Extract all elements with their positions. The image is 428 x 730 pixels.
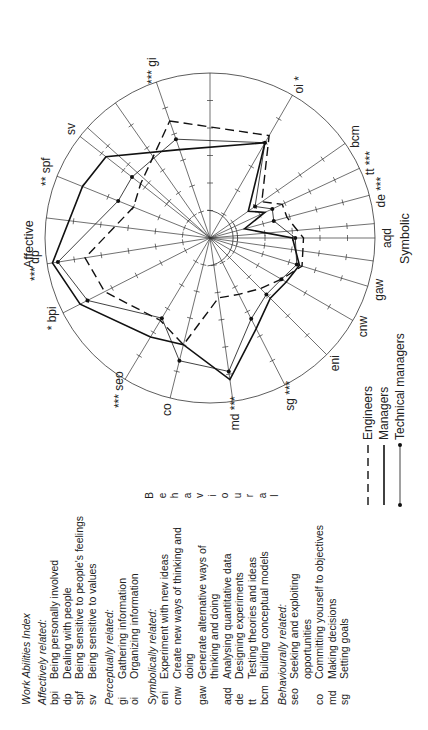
data-point — [263, 141, 267, 145]
behavioural-letter: i — [206, 489, 217, 502]
index-desc: Gathering information — [116, 515, 129, 679]
axis-tick — [292, 228, 293, 234]
axis-tick — [256, 263, 259, 268]
index-desc: Seeking and exploiting opportunities — [288, 515, 313, 679]
index-abbr: bpi — [48, 679, 61, 705]
axis-tick — [237, 239, 238, 245]
axis-tick — [276, 117, 281, 120]
index-item-dp: dpDealing with people — [61, 515, 74, 705]
data-point — [279, 277, 283, 281]
axis-tick — [144, 146, 149, 149]
axis-tick — [137, 354, 142, 357]
axis-tick — [135, 273, 138, 278]
index-group: Behaviourally related:seoSeeking and exp… — [276, 515, 351, 705]
axis-tick — [121, 168, 125, 173]
axis-tick — [249, 165, 254, 168]
index-item-aqd: aqdAnalysing quantitative data — [221, 515, 234, 705]
legend: EngineersManagersTechnical managers — [361, 333, 407, 507]
data-point — [116, 199, 120, 203]
axis-label-bpi: * bpi — [45, 306, 59, 330]
axis-label-cnw: cnw — [356, 315, 370, 337]
index-abbr: oi — [128, 679, 141, 705]
axis-tick — [160, 169, 165, 172]
behavioural-letter: h — [169, 489, 180, 502]
radar-chart: *** gioi *bcmtt ***de ***aqdgawcnwenisg … — [0, 0, 428, 530]
axis-label-sv: sv — [64, 123, 78, 135]
axis-tick — [270, 359, 275, 362]
index-desc: Being sensitive to values — [86, 515, 99, 679]
axis-label-gaw: gaw — [372, 278, 386, 300]
index-title: Work Abilities Index — [20, 515, 33, 705]
index-item-tt: ttTesting theories and ideas — [246, 515, 259, 705]
behavioural-letter: l — [269, 489, 280, 502]
index-item-bpi: bpiBeing personally involved — [48, 515, 61, 705]
behavioural-letter: r — [244, 489, 255, 502]
axis-tick — [264, 243, 265, 249]
index-abbr: gaw — [196, 679, 221, 705]
index-desc: Designing experiments — [233, 515, 246, 679]
index-group-heading: Behaviourally related: — [276, 515, 289, 705]
axis-tick — [226, 374, 232, 375]
behavioural-letter: v — [194, 489, 205, 502]
axis-tick — [143, 185, 147, 190]
index-abbr: seo — [288, 679, 313, 705]
axis-tick — [291, 247, 292, 253]
axis-tick — [321, 157, 324, 162]
behavioural-letter: a — [256, 489, 267, 502]
index-desc: Create new ways of thinking and doing — [171, 515, 196, 679]
axis-label-sg: sg *** — [283, 380, 297, 410]
index-abbr: de — [233, 679, 246, 705]
axis-tick — [165, 307, 170, 310]
axis-tick — [284, 200, 287, 205]
axis-label-oi: oi * — [292, 76, 306, 94]
index-desc: Generate alternative ways of thinking an… — [196, 515, 221, 679]
legend-marker — [398, 443, 402, 447]
behavioural-letter: e — [156, 489, 167, 502]
radar-grid — [45, 73, 375, 403]
index-desc: Analysing quantitative data — [221, 515, 234, 679]
axis-tick — [257, 335, 262, 338]
group-label-symbolic: Symbolic — [398, 213, 412, 264]
axis-tick — [304, 290, 307, 295]
index-item-cnw: cnwCreate new ways of thinking and doing — [171, 515, 196, 705]
axis-tick — [100, 151, 104, 156]
axis-tick — [346, 254, 347, 260]
axis-tick — [235, 189, 240, 192]
axis-tick — [160, 260, 163, 265]
axis-tick — [151, 331, 156, 334]
index-desc: Testing theories and ideas — [246, 515, 259, 679]
axis-tick — [319, 225, 320, 231]
data-point — [85, 298, 89, 302]
data-point — [272, 219, 276, 223]
axis-tick — [176, 191, 181, 194]
index-item-md: mdMaking decisions — [326, 515, 339, 705]
index-desc: Committing yourself to objectives — [313, 515, 326, 679]
index-group: Affectively related:bpiBeing personally … — [36, 515, 99, 705]
index-abbr: cnw — [171, 679, 196, 705]
axis-tick — [219, 319, 225, 320]
axis-tick — [222, 347, 228, 348]
group-label-behavioural: Behavioural — [143, 490, 281, 501]
index-desc: Organizing information — [128, 515, 141, 679]
axis-tick — [155, 228, 156, 234]
data-point — [227, 369, 231, 373]
axis-tick — [101, 252, 102, 258]
axis-label-seo: *** seo — [112, 371, 126, 408]
axis-label-spf: ** spf — [39, 157, 53, 186]
axis-tick — [182, 239, 183, 245]
axis-tick — [179, 284, 184, 287]
axis-tick — [128, 225, 129, 231]
legend-label: Technical managers — [393, 333, 407, 440]
index-group: Symbolically related:eniExperiment with … — [146, 515, 271, 705]
data-point — [160, 316, 164, 320]
index-item-gaw: gawGenerate alternative ways of thinking… — [196, 515, 221, 705]
index-group: Perceptually related:giGathering informa… — [103, 515, 141, 705]
legend-label: Engineers — [361, 386, 375, 440]
data-point — [253, 204, 257, 208]
index-abbr: sv — [86, 679, 99, 705]
axis-label-md: md *** — [228, 396, 242, 430]
axis-tick — [192, 214, 197, 217]
index-abbr: eni — [158, 679, 171, 705]
axis-tick — [245, 310, 250, 313]
legend-label: Managers — [377, 387, 391, 440]
